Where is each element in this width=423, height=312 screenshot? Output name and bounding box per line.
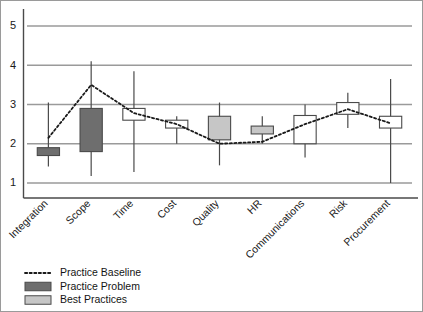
box-integration (37, 148, 59, 156)
x-tick-label-hr: HR (244, 197, 264, 217)
box-communications (294, 115, 316, 143)
legend-label-best-practices: Best Practices (60, 293, 127, 305)
x-axis-tick-labels: IntegrationScopeTimeCostQualityHRCommuni… (6, 196, 392, 260)
box-quality (208, 116, 230, 140)
chart-canvas: 12345IntegrationScopeTimeCostQualityHRCo… (1, 1, 423, 312)
y-axis-tick-labels: 12345 (10, 19, 16, 188)
x-tick-label-integration: Integration (6, 197, 50, 241)
legend-label-practice-baseline: Practice Baseline (60, 266, 141, 278)
y-tick-label-2: 2 (10, 137, 16, 149)
y-tick-label-3: 3 (10, 98, 16, 110)
x-tick-label-quality: Quality (189, 196, 221, 228)
box-procurement (379, 116, 401, 128)
x-tick-label-risk: Risk (326, 196, 349, 219)
x-tick-label-time: Time (111, 197, 136, 222)
legend-swatch-practice-problem (25, 282, 51, 291)
y-tick-label-1: 1 (10, 176, 16, 188)
x-tick-label-scope: Scope (63, 197, 93, 227)
chart-figure: 12345IntegrationScopeTimeCostQualityHRCo… (0, 0, 423, 312)
y-tick-label-4: 4 (10, 59, 16, 71)
y-tick-label-5: 5 (10, 19, 16, 31)
box-time (123, 108, 145, 120)
box-hr (251, 126, 273, 134)
legend-swatch-best-practices (25, 296, 51, 305)
box-scope (80, 108, 102, 151)
x-tick-label-procurement: Procurement (341, 197, 392, 248)
legend: Practice BaselinePractice ProblemBest Pr… (25, 266, 141, 305)
legend-label-practice-problem: Practice Problem (60, 280, 140, 292)
x-tick-label-cost: Cost (154, 197, 178, 221)
